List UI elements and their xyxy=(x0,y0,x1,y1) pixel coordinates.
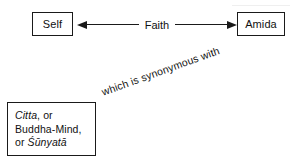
node-label-amida: Amida xyxy=(245,18,277,30)
node-box-self[interactable]: Self xyxy=(32,12,73,36)
edge-label-synonym: which is synonymous with xyxy=(100,44,221,97)
concept-box[interactable]: Citta, or Buddha-Mind, or Śūnyatā xyxy=(7,102,96,156)
diagram-canvas: Self Faith Amida which is synonymous wit… xyxy=(0,0,295,162)
node-label-self: Self xyxy=(43,18,62,30)
edge-label-faith: Faith xyxy=(139,18,175,30)
arrowhead-left-icon xyxy=(77,21,87,29)
edge-line-left xyxy=(87,24,139,25)
concept-line-3-plain: or xyxy=(15,136,28,148)
concept-line-1: Citta, or xyxy=(15,109,95,123)
scan-artifact xyxy=(232,5,290,6)
concept-line-2: Buddha-Mind, xyxy=(15,123,95,137)
concept-term-buddha-mind: Buddha-Mind, xyxy=(15,123,82,135)
concept-line-3: or Śūnyatā xyxy=(15,136,95,150)
concept-line-1-plain: , or xyxy=(37,109,53,121)
edge-line-right xyxy=(175,24,227,25)
edge-faith: Faith xyxy=(77,16,237,33)
node-box-amida[interactable]: Amida xyxy=(237,12,285,36)
arrowhead-right-icon xyxy=(227,21,237,29)
concept-term-sunyata: Śūnyatā xyxy=(28,136,67,148)
concept-term-citta: Citta xyxy=(15,109,37,121)
